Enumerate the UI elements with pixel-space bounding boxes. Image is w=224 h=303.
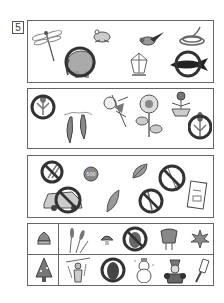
scarecrow-icon <box>64 256 92 284</box>
paper-clip-icon <box>40 160 64 184</box>
row-divider <box>28 254 213 255</box>
booklet-icon <box>186 180 208 210</box>
sunflower-icon <box>134 93 164 137</box>
panel-seasons-table <box>27 223 214 286</box>
chestnut-icon <box>37 231 51 245</box>
feather-icon <box>105 188 121 214</box>
coin-icon: 500 <box>83 166 99 182</box>
panel-objects: 500 <box>27 155 214 218</box>
owl-icon <box>100 256 126 284</box>
car-icon <box>42 186 86 214</box>
whale-icon <box>168 49 210 79</box>
column-divider <box>58 224 59 285</box>
tulip-icon <box>30 93 56 123</box>
crystal-icon <box>128 51 150 79</box>
bird-icon <box>138 31 166 47</box>
christmas-tree-icon <box>34 257 54 283</box>
snake-icon <box>178 26 208 48</box>
pea-pod-icon <box>62 109 94 145</box>
beetle-icon <box>122 226 148 252</box>
leaf-icon <box>131 162 149 180</box>
snowman-icon <box>132 257 156 283</box>
elephant-icon <box>63 43 97 79</box>
dragonfly-icon <box>32 27 62 63</box>
pencil-icon <box>138 188 164 214</box>
panel-animals <box>27 20 214 83</box>
maple-leaf-icon <box>190 229 210 249</box>
svg-text:500: 500 <box>86 171 96 177</box>
morning-glory-icon <box>98 91 132 129</box>
pampas-grass-icon <box>64 227 90 253</box>
tulip-icon <box>188 109 212 143</box>
exercise-number: 5 <box>12 21 24 34</box>
moon-viewing-dumplings-icon <box>158 227 180 251</box>
santa-icon <box>162 256 188 284</box>
mushroom-icon <box>100 234 114 246</box>
panel-plants <box>27 88 214 149</box>
battledore-icon <box>193 257 211 283</box>
